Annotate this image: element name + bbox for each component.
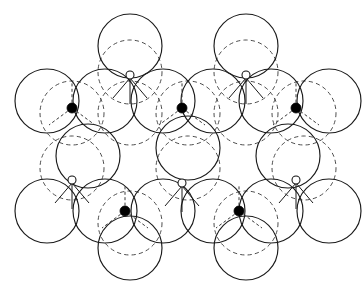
open-interstitial-site <box>178 179 186 187</box>
layer-a-sphere <box>156 116 220 180</box>
filled-interstitial-site <box>234 206 244 216</box>
layer-a-sphere <box>98 216 162 280</box>
site-spoke <box>246 78 263 98</box>
open-interstitial-site <box>68 176 76 184</box>
layer-a-sphere <box>131 179 195 243</box>
filled-interstitial-site <box>120 206 130 216</box>
layer-a-sphere <box>15 69 79 133</box>
layer-a-sphere <box>239 179 303 243</box>
layer-b-dashed-group <box>40 40 336 255</box>
layer-a-sphere <box>214 14 278 78</box>
layer-a-sphere <box>297 179 361 243</box>
layer-b-sphere <box>214 191 278 255</box>
open-interstitial-site <box>126 71 134 79</box>
layer-a-sphere <box>214 216 278 280</box>
filled-interstitial-site <box>67 103 77 113</box>
layer-a-sphere <box>256 124 320 188</box>
site-spoke <box>165 186 182 206</box>
layer-a-solid-group <box>15 14 361 280</box>
open-interstitial-site <box>292 176 300 184</box>
layer-a-sphere <box>131 69 195 133</box>
layer-a-sphere <box>181 69 245 133</box>
close-packed-lattice-svg <box>0 0 364 286</box>
open-interstitial-site <box>242 71 250 79</box>
layer-b-sphere <box>272 81 336 145</box>
filled-interstitial-site <box>291 103 301 113</box>
layer-a-sphere <box>98 14 162 78</box>
site-spoke <box>113 78 130 98</box>
layer-b-sphere <box>98 191 162 255</box>
layer-a-sphere <box>56 124 120 188</box>
site-spoke <box>279 183 296 203</box>
layer-a-sphere <box>15 179 79 243</box>
layer-a-sphere <box>297 69 361 133</box>
octahedral-sites-group <box>67 103 301 216</box>
filled-interstitial-site <box>177 103 187 113</box>
packing-diagram-figure <box>0 0 364 286</box>
